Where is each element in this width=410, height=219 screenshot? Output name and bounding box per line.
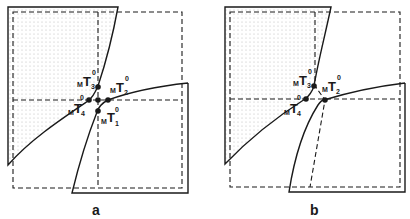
panel-b-caption: b bbox=[310, 202, 319, 218]
panel-a-label-T2: M T 2 0 bbox=[110, 75, 129, 96]
panel-a-shaded-region bbox=[8, 7, 118, 165]
svg-text:0: 0 bbox=[115, 106, 119, 113]
panel-b-point-T2 bbox=[322, 97, 328, 103]
svg-text:3: 3 bbox=[307, 82, 311, 89]
figure-canvas: M T 3 0 M T 2 0 M T 4 0 M T 1 0 a bbox=[0, 0, 410, 219]
panel-b: M T 3 0 M T 2 0 M T 4 0 b bbox=[225, 7, 405, 218]
svg-text:3: 3 bbox=[91, 83, 95, 90]
svg-text:T: T bbox=[83, 74, 91, 89]
panel-a-point-T4 bbox=[86, 97, 92, 103]
svg-text:4: 4 bbox=[81, 110, 85, 117]
svg-text:4: 4 bbox=[297, 110, 301, 117]
svg-text:0: 0 bbox=[297, 94, 301, 101]
panel-b-point-T3 bbox=[311, 83, 317, 89]
panel-b-label-T2: M T 2 0 bbox=[322, 74, 341, 95]
svg-text:T: T bbox=[328, 79, 336, 94]
svg-text:0: 0 bbox=[308, 68, 312, 75]
panel-a-point-T1 bbox=[95, 108, 101, 114]
svg-text:T: T bbox=[116, 80, 124, 95]
svg-text:T: T bbox=[299, 73, 307, 88]
panel-a-label-T1: M T 1 0 bbox=[101, 106, 119, 127]
svg-text:0: 0 bbox=[92, 69, 96, 76]
svg-text:0: 0 bbox=[337, 74, 341, 81]
svg-text:2: 2 bbox=[336, 88, 340, 95]
svg-text:0: 0 bbox=[125, 75, 129, 82]
panel-a-caption: a bbox=[92, 202, 100, 218]
panel-b-point-T4 bbox=[303, 96, 309, 102]
svg-text:T: T bbox=[107, 110, 115, 125]
panel-a-point-T3 bbox=[95, 84, 101, 90]
panel-a-point-T2 bbox=[105, 97, 111, 103]
svg-text:1: 1 bbox=[115, 120, 119, 127]
panel-a: M T 3 0 M T 2 0 M T 4 0 M T 1 0 a bbox=[8, 7, 188, 218]
svg-text:0: 0 bbox=[80, 94, 84, 101]
svg-text:2: 2 bbox=[124, 89, 128, 96]
panel-a-point-center bbox=[95, 97, 101, 103]
